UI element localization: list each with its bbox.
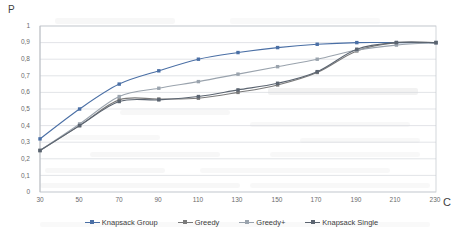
chart-container: P C 1 0,9 0,8 0,7 0,6 0,5 0,4 0,3 0,2 0,…	[0, 0, 463, 234]
legend-label: Knapsack Group	[102, 218, 158, 227]
series-lines	[38, 41, 437, 152]
legend-item-knapsack-single[interactable]: Knapsack Single	[305, 218, 378, 227]
legend-label: Knapsack Single	[322, 218, 378, 227]
legend-label: Greedy	[195, 218, 220, 227]
legend-line-marker-icon	[85, 218, 100, 226]
legend-line-marker-icon	[178, 218, 193, 226]
legend-line-marker-icon	[239, 218, 254, 226]
legend-label: Greedy+	[256, 218, 285, 227]
plot-area	[0, 0, 463, 234]
legend-item-greedy[interactable]: Greedy	[178, 218, 220, 227]
legend-item-knapsack-group[interactable]: Knapsack Group	[85, 218, 158, 227]
legend-line-marker-icon	[305, 218, 320, 226]
chart-legend: Knapsack Group Greedy Greedy+ Knapsack S…	[0, 214, 463, 230]
legend-item-greedy-plus[interactable]: Greedy+	[239, 218, 285, 227]
